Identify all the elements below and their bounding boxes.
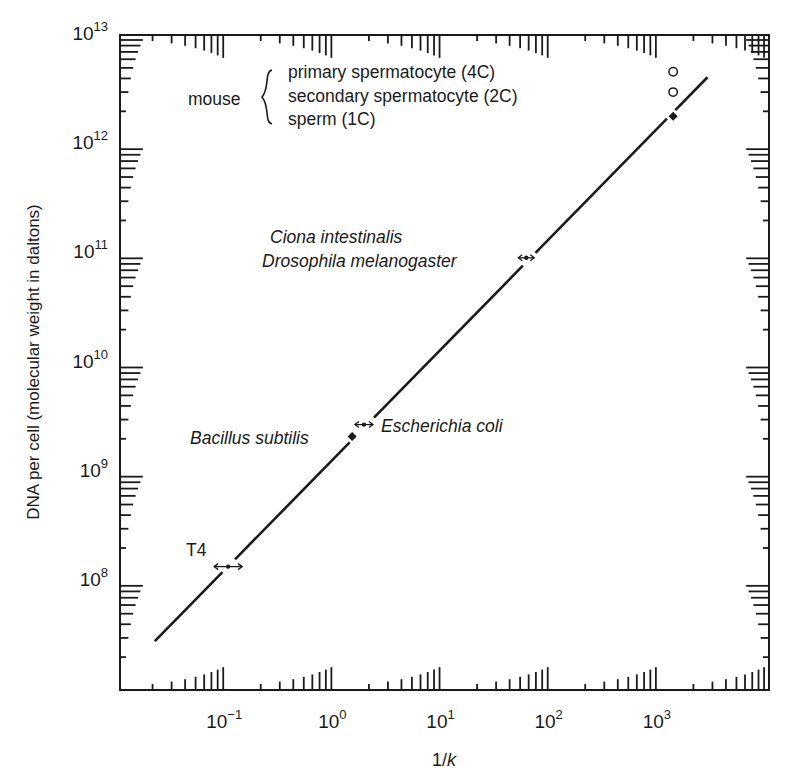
- data-markers: [214, 68, 677, 570]
- y-tick-label: 108: [80, 565, 108, 590]
- t4-label: T4: [186, 540, 207, 560]
- mouse-secondary-spermatocyte-2c-circle-marker: [669, 88, 677, 96]
- mouse-primary-label: primary spermatocyte (4C): [288, 62, 495, 82]
- mouse-label: mouse: [188, 89, 241, 109]
- mouse-primary-spermatocyte-4c-circle-marker: [669, 68, 677, 76]
- escherichia-coli-range-arrow-icon: [355, 422, 373, 428]
- plot-frame: [120, 35, 769, 690]
- x-tick-label: 10−1: [206, 707, 242, 732]
- y-tick-label: 109: [80, 456, 108, 481]
- trend-line-segment: [675, 77, 707, 110]
- drosophila-label: Drosophila melanogaster: [262, 251, 458, 271]
- y-tick-label: 1010: [72, 347, 108, 372]
- x-tick-label: 101: [426, 707, 454, 732]
- bacillus-label: Bacillus subtilis: [190, 428, 309, 448]
- brace-icon: [262, 70, 272, 124]
- x-tick-label: 100: [318, 707, 346, 732]
- x-tick-label: 103: [643, 707, 671, 732]
- y-tick-label: 1011: [73, 237, 108, 262]
- drosophila-melanogaster-range-arrow-icon: [518, 255, 534, 261]
- trend-line-segment: [155, 572, 223, 641]
- x-axis-label: 1/k: [432, 750, 457, 770]
- mouse-secondary-label: secondary spermatocyte (2C): [288, 86, 518, 106]
- x-tick-label: 102: [534, 707, 562, 732]
- ciona-label: Ciona intestinalis: [270, 227, 403, 247]
- mouse-sperm-1c-diamond-marker: [669, 112, 678, 121]
- bacillus-subtilis-diamond-marker: [348, 432, 357, 441]
- y-axis-tick-labels: 1081091010101110121013: [72, 19, 108, 590]
- axis-ticks: [120, 35, 769, 690]
- trend-line-segment: [535, 119, 667, 253]
- trend-line-segment: [235, 442, 350, 559]
- x-axis-tick-labels: 10−1100101102103: [206, 707, 671, 732]
- ecoli-label: Escherichia coli: [381, 416, 504, 436]
- data-series: [155, 77, 708, 641]
- log-log-chart: 10−1100101102103 1081091010101110121013 …: [0, 0, 794, 781]
- y-tick-label: 1013: [72, 19, 108, 44]
- y-axis-label: DNA per cell (molecular weight in dalton…: [24, 204, 43, 520]
- y-tick-label: 1012: [72, 128, 108, 153]
- trend-line-segment: [374, 266, 523, 418]
- mouse-sperm-label: sperm (1C): [288, 109, 376, 129]
- t4-range-arrow-icon: [214, 564, 242, 570]
